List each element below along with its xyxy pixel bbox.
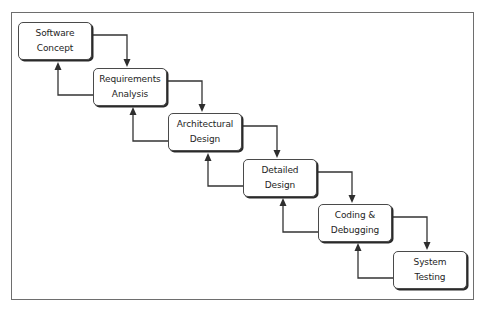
stage-software-concept: Software Concept bbox=[18, 22, 92, 60]
stage-label-line1: Detailed bbox=[262, 163, 299, 178]
arrow-feedback-1 bbox=[55, 62, 94, 95]
stage-requirements-analysis: Requirements Analysis bbox=[93, 68, 167, 106]
arrow-forward-4 bbox=[317, 172, 356, 203]
stage-label-line2: Debugging bbox=[331, 223, 379, 238]
stage-system-testing: System Testing bbox=[393, 251, 467, 289]
stage-label-line1: Software bbox=[36, 26, 75, 41]
arrow-feedback-5 bbox=[355, 243, 394, 278]
stage-label-line2: Testing bbox=[415, 270, 446, 285]
stage-label-line2: Design bbox=[190, 132, 220, 147]
stage-label-line1: System bbox=[414, 255, 447, 270]
arrow-forward-2 bbox=[167, 81, 206, 112]
arrow-forward-1 bbox=[92, 35, 131, 67]
stage-label-line2: Design bbox=[265, 178, 295, 193]
arrow-feedback-3 bbox=[205, 153, 244, 186]
stage-label-line1: Architectural bbox=[177, 117, 233, 132]
arrow-forward-3 bbox=[242, 126, 281, 158]
arrow-feedback-2 bbox=[130, 107, 169, 141]
stage-label-line2: Analysis bbox=[112, 87, 148, 102]
arrow-forward-5 bbox=[392, 217, 431, 250]
stage-label-line1: Coding & bbox=[335, 208, 376, 223]
stage-label-line1: Requirements bbox=[99, 72, 160, 87]
stage-architectural-design: Architectural Design bbox=[168, 113, 242, 151]
stage-coding-debugging: Coding & Debugging bbox=[318, 204, 392, 242]
stage-detailed-design: Detailed Design bbox=[243, 159, 317, 197]
stage-label-line2: Concept bbox=[37, 41, 74, 56]
arrow-feedback-4 bbox=[280, 198, 319, 232]
